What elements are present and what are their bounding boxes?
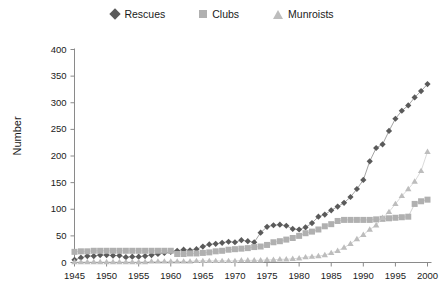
data-point-square [425,197,431,203]
data-point-triangle [84,259,90,264]
data-point-square [418,198,424,204]
data-point-square [123,248,129,254]
series-line-munroists [75,152,428,262]
data-point-square [360,217,366,223]
plot-area [0,0,445,294]
data-point-square [264,242,270,248]
data-point-square [347,217,353,223]
data-point-triangle [123,259,129,264]
data-point-square [161,248,167,254]
data-point-square [226,247,232,253]
data-point-diamond [277,222,283,228]
data-point-triangle [341,244,347,249]
data-point-triangle [367,226,373,231]
data-point-diamond [360,177,366,183]
data-point-triangle [354,236,360,241]
data-point-square [303,230,309,236]
data-point-triangle [424,148,430,153]
data-point-triangle [245,257,251,262]
data-point-square [386,215,392,221]
data-point-diamond [200,243,206,249]
data-point-square [187,250,193,256]
data-point-diamond [386,128,392,134]
data-point-diamond [219,240,225,246]
data-point-triangle [174,258,180,263]
data-point-square [412,201,418,207]
data-point-square [129,248,135,254]
data-point-square [296,233,302,239]
data-point-square [168,248,174,254]
data-point-square [258,244,264,250]
data-point-triangle [277,256,283,261]
series-rescues [71,81,430,263]
data-point-triangle [219,258,225,263]
data-point-diamond [283,223,289,229]
y-tick-label: 100 [33,204,67,214]
data-point-diamond [270,222,276,228]
data-point-square [136,248,142,254]
data-point-square [174,251,180,257]
data-point-diamond [232,239,238,245]
data-point-square [335,218,341,224]
data-point-triangle [168,258,174,263]
data-point-diamond [379,141,385,147]
chart-container: Rescues Clubs Munroists Number 050100150… [0,0,445,294]
data-point-square [149,248,155,254]
data-point-triangle [411,178,417,183]
data-point-square [251,244,257,250]
data-point-diamond [245,238,251,244]
y-tick-label: 0 [33,258,67,268]
data-point-square [373,216,379,222]
data-point-diamond [225,239,231,245]
data-point-diamond [238,237,244,243]
data-point-square [213,248,219,254]
data-point-triangle [180,258,186,263]
data-point-square [290,235,296,241]
data-point-square [116,248,122,254]
data-point-square [322,223,328,229]
data-point-triangle [97,259,103,264]
data-point-square [206,249,212,255]
data-point-triangle [155,258,161,263]
data-point-diamond [328,207,334,213]
data-point-square [193,250,199,256]
data-point-triangle [418,168,424,173]
data-point-triangle [135,259,141,264]
y-tick-label: 350 [33,71,67,81]
data-point-triangle [129,259,135,264]
data-point-diamond [296,226,302,232]
data-point-square [78,248,84,254]
data-point-triangle [213,258,219,263]
plot-svg [0,0,445,294]
x-tick-label: 2000 [408,271,445,281]
data-point-diamond [367,158,373,164]
data-point-square [277,238,283,244]
data-point-square [270,239,276,245]
data-point-diamond [302,224,308,230]
data-point-diamond [322,211,328,217]
y-tick-label: 250 [33,124,67,134]
data-point-square [315,226,321,232]
data-point-square [367,217,373,223]
data-point-triangle [91,259,97,264]
data-point-square [392,215,398,221]
data-point-triangle [193,258,199,263]
data-point-diamond [213,241,219,247]
data-point-triangle [225,258,231,263]
data-point-diamond [206,241,212,247]
data-point-triangle [206,258,212,263]
data-point-square [91,248,97,254]
y-tick-label: 200 [33,151,67,161]
data-point-square [181,251,187,257]
data-point-diamond [142,253,148,259]
y-tick-label: 300 [33,98,67,108]
data-point-triangle [116,259,122,264]
series-line-rescues [75,84,428,260]
data-point-square [328,221,334,227]
data-point-square [245,245,251,251]
data-point-square [84,248,90,254]
data-point-diamond [373,145,379,151]
y-tick-label: 50 [33,231,67,241]
data-point-triangle [264,257,270,262]
data-point-square [155,248,161,254]
